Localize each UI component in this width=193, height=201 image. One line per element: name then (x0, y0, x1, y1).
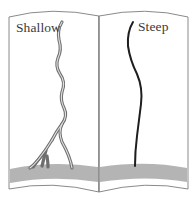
steep-label: Steep (138, 20, 169, 34)
shallow-label: Shallow (16, 21, 61, 35)
open-book-diagram: Shallow Steep (0, 0, 193, 201)
